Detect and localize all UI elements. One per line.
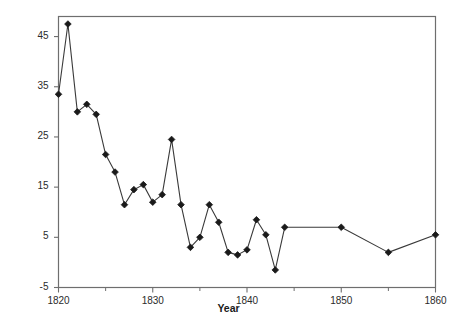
data-point-marker: [206, 201, 213, 208]
data-point-marker: [121, 201, 128, 208]
data-point-marker: [102, 151, 109, 158]
chart-container: Compound Annual Percentage Change Year -…: [0, 0, 457, 326]
data-point-marker: [234, 252, 241, 259]
x-tick-label: 1820: [35, 295, 83, 306]
data-point-marker: [281, 224, 288, 231]
data-point-marker: [272, 267, 279, 274]
data-point-marker: [253, 216, 260, 223]
data-point-marker: [338, 224, 345, 231]
data-point-marker: [55, 91, 62, 98]
y-tick-label: 5: [23, 230, 49, 241]
x-tick-label: 1840: [223, 295, 271, 306]
data-point-marker: [225, 249, 232, 256]
y-tick-label: 25: [23, 130, 49, 141]
data-point-marker: [140, 181, 147, 188]
y-tick-label: 35: [23, 80, 49, 91]
line-chart-plot: [0, 0, 457, 326]
x-tick-label: 1830: [129, 295, 177, 306]
data-point-marker: [112, 169, 119, 176]
data-point-marker: [168, 136, 175, 143]
data-point-marker: [385, 249, 392, 256]
series-line: [59, 24, 436, 270]
y-tick-label: 15: [23, 180, 49, 191]
data-series-line: [59, 24, 436, 270]
x-tick-label: 1850: [317, 295, 365, 306]
data-point-marker: [215, 219, 222, 226]
x-tick-label: 1860: [412, 295, 457, 306]
data-point-marker: [244, 247, 251, 254]
data-point-marker: [263, 232, 270, 239]
data-point-marker: [432, 232, 439, 239]
data-point-marker: [65, 21, 72, 28]
y-tick-label: -5: [23, 281, 49, 292]
data-point-marker: [131, 186, 138, 193]
data-point-marker: [178, 201, 185, 208]
y-tick-label: 45: [23, 30, 49, 41]
data-point-markers: [55, 21, 439, 274]
